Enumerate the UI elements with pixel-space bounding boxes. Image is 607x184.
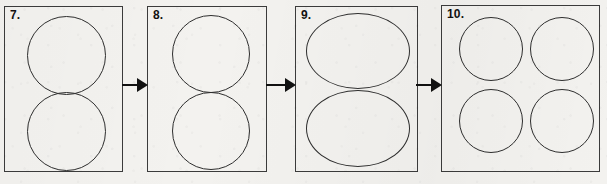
panel-9-ellipse-top [306, 13, 410, 89]
panel-10-circle-bottom-left [459, 89, 523, 153]
panel-7-circle-top [27, 16, 106, 95]
panel-10: 10. [441, 5, 600, 172]
panel-8-circle-bottom [172, 92, 250, 170]
arrow-7-to-8 [122, 78, 148, 92]
panel-8: 8. [147, 6, 267, 172]
panel-9-ellipse-bottom [306, 90, 410, 167]
panel-10-circle-bottom-right [530, 89, 594, 153]
panel-9-label: 9. [301, 9, 311, 21]
panel-10-circle-top-right [530, 17, 594, 81]
arrow-9-to-10-shaft [416, 84, 432, 86]
figure-canvas: 7.8.9.10. [0, 0, 607, 184]
panel-7-label: 7. [10, 9, 20, 21]
panel-7-circle-bottom [27, 92, 106, 171]
panel-8-label: 8. [153, 9, 163, 21]
arrow-8-to-9-shaft [266, 84, 286, 86]
arrow-8-to-9-head-icon [285, 78, 296, 92]
arrow-8-to-9 [266, 78, 296, 92]
arrow-7-to-8-shaft [122, 84, 138, 86]
arrow-7-to-8-head-icon [137, 78, 148, 92]
arrow-9-to-10-head-icon [431, 78, 442, 92]
panel-8-circle-top [172, 15, 250, 93]
panel-7: 7. [4, 6, 123, 172]
panel-9: 9. [295, 6, 418, 172]
panel-10-circle-top-left [459, 17, 523, 81]
panel-10-label: 10. [447, 8, 464, 20]
arrow-9-to-10 [416, 78, 442, 92]
